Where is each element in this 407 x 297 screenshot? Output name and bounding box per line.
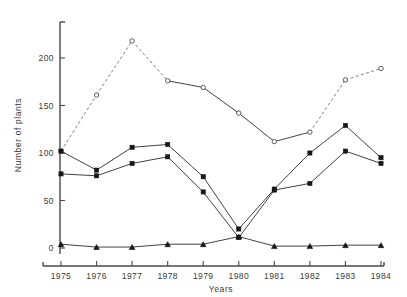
- series-segment: [310, 245, 346, 246]
- series-segment: [239, 190, 275, 238]
- y-tick-label: 150: [39, 101, 54, 111]
- y-axis-title: Number of plants: [13, 98, 23, 172]
- x-tick-label: 1981: [264, 271, 285, 281]
- series-segment: [274, 183, 310, 190]
- x-tick-label: 1976: [86, 271, 107, 281]
- data-point-open-circle: [237, 111, 241, 115]
- data-point-filled-square: [343, 123, 347, 127]
- data-point-filled-square: [130, 161, 134, 165]
- series-segment: [132, 244, 168, 247]
- series-segment: [345, 68, 381, 79]
- series-segment: [132, 41, 168, 81]
- series-lines: [61, 41, 381, 247]
- data-point-open-circle: [94, 93, 98, 97]
- data-point-filled-square: [379, 161, 383, 165]
- data-point-open-circle: [130, 39, 134, 43]
- series-segment: [310, 151, 346, 183]
- series-segment: [203, 192, 239, 238]
- series-segment: [97, 147, 133, 170]
- data-point-filled-square: [343, 149, 347, 153]
- data-point-filled-square: [94, 174, 98, 178]
- series-segment: [97, 163, 133, 175]
- data-point-filled-square: [94, 168, 98, 172]
- data-point-open-circle: [379, 66, 383, 70]
- series-segment: [239, 189, 275, 229]
- series-segment: [61, 174, 97, 176]
- x-tick-label: 1979: [193, 271, 214, 281]
- x-tick-label: 1978: [157, 271, 178, 281]
- series-segment: [203, 237, 239, 245]
- series-markers: [58, 39, 384, 250]
- x-axis-ticks: 1975197619771978197919801981198219831984: [51, 261, 392, 281]
- series-segment: [203, 177, 239, 229]
- data-point-filled-square: [308, 151, 312, 155]
- x-tick-label: 1984: [371, 271, 392, 281]
- series-segment: [310, 80, 346, 132]
- series-segment: [239, 237, 275, 247]
- data-point-open-circle: [343, 78, 347, 82]
- line-chart: 050100150200 197519761977197819791980198…: [0, 0, 407, 297]
- data-point-open-circle: [272, 139, 276, 143]
- data-point-filled-square: [59, 172, 63, 176]
- data-point-open-circle: [201, 85, 205, 89]
- series-segment: [274, 153, 310, 189]
- series-segment: [310, 125, 346, 153]
- series-segment: [168, 81, 204, 88]
- data-point-filled-square: [308, 181, 312, 185]
- series-segment: [61, 151, 97, 170]
- x-tick-label: 1983: [335, 271, 356, 281]
- series-segment: [168, 157, 204, 192]
- series-segment: [97, 41, 133, 95]
- y-tick-label: 0: [49, 243, 54, 253]
- y-tick-label: 100: [39, 148, 54, 158]
- series-segment: [274, 132, 310, 142]
- series-segment: [168, 144, 204, 176]
- x-tick-label: 1982: [300, 271, 321, 281]
- series-segment: [203, 87, 239, 113]
- series-segment: [132, 144, 168, 147]
- data-point-filled-square: [272, 188, 276, 192]
- data-point-filled-square: [166, 142, 170, 146]
- data-point-filled-square: [379, 156, 383, 160]
- chart-container: 050100150200 197519761977197819791980198…: [0, 0, 407, 297]
- data-point-open-circle: [308, 130, 312, 134]
- data-point-filled-square: [237, 227, 241, 231]
- data-point-filled-square: [201, 190, 205, 194]
- series-segment: [239, 113, 275, 142]
- y-tick-label: 50: [44, 196, 54, 206]
- data-point-filled-square: [59, 149, 63, 153]
- data-point-filled-square: [130, 145, 134, 149]
- data-point-open-circle: [165, 79, 169, 83]
- series-segment: [61, 244, 97, 247]
- x-tick-label: 1977: [122, 271, 143, 281]
- x-axis-title: Years: [209, 284, 233, 294]
- data-point-filled-square: [201, 175, 205, 179]
- series-segment: [132, 157, 168, 164]
- series-segment: [61, 95, 97, 151]
- y-tick-label: 200: [39, 53, 54, 63]
- data-point-filled-square: [166, 155, 170, 159]
- x-tick-label: 1975: [51, 271, 72, 281]
- chart-axes: [43, 22, 384, 266]
- x-tick-label: 1980: [229, 271, 250, 281]
